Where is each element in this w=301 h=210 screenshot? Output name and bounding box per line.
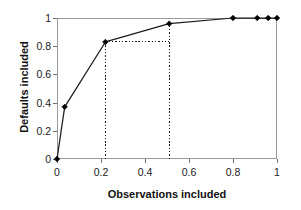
- x-tick-label: 1: [274, 167, 280, 178]
- x-tick-label: 0: [54, 167, 60, 178]
- chart-screenshot: 00.20.40.60.81 00.20.40.60.81 Observatio…: [0, 0, 301, 210]
- annotation-guides: [105, 24, 169, 159]
- x-tick-mark: [277, 159, 278, 163]
- data-point-marker: [274, 15, 279, 20]
- data-point-marker: [54, 156, 59, 161]
- series-group: [54, 15, 279, 161]
- x-tick-label: 0.2: [94, 167, 109, 178]
- cap-curve-chart: 00.20.40.60.81 00.20.40.60.81 Observatio…: [0, 0, 301, 210]
- series-line: [57, 18, 277, 159]
- x-tick-label: 0.8: [226, 167, 241, 178]
- data-point-marker: [230, 15, 235, 20]
- plot-series-layer: [57, 18, 277, 159]
- x-tick-label: 0.4: [138, 167, 153, 178]
- x-tick-mark: [145, 159, 146, 163]
- data-point-marker: [266, 15, 271, 20]
- data-point-marker: [167, 21, 172, 26]
- x-tick-mark: [189, 159, 190, 163]
- data-point-marker: [255, 15, 260, 20]
- x-tick-mark: [101, 159, 102, 163]
- y-axis-title: Defaults included: [18, 17, 30, 158]
- x-axis-title: Observations included: [57, 188, 277, 200]
- x-tick-mark: [233, 159, 234, 163]
- x-tick-label: 0.6: [182, 167, 197, 178]
